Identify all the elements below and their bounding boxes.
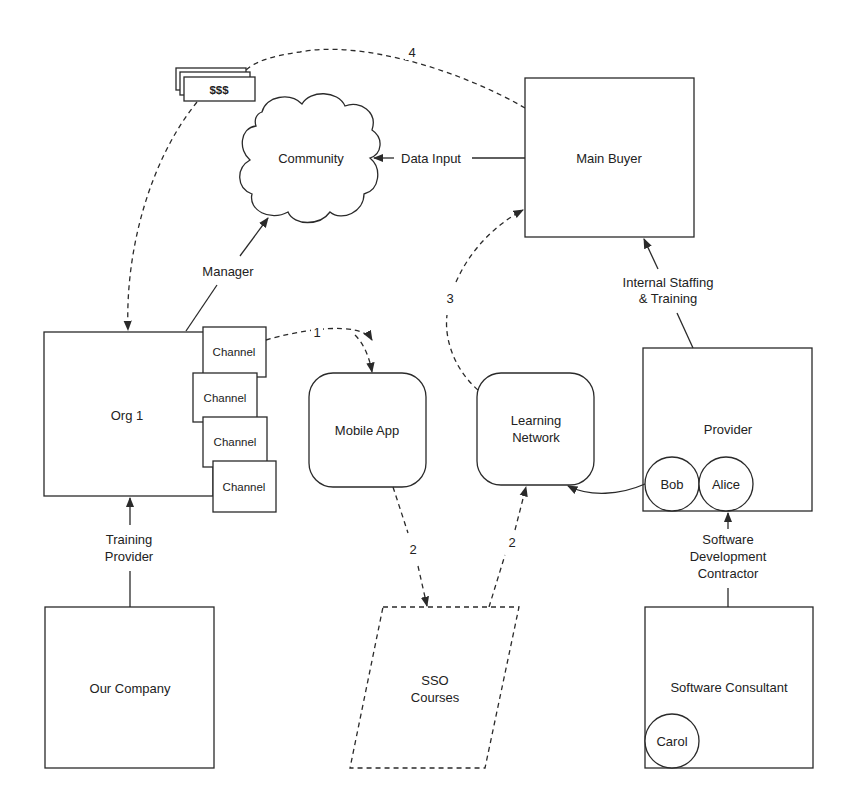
- svg-text:& Training: & Training: [639, 291, 698, 306]
- carol-node[interactable]: Carol: [645, 714, 699, 768]
- svg-text:Contractor: Contractor: [698, 566, 759, 581]
- edge-money-to-org1: [128, 102, 197, 330]
- svg-text:Software: Software: [702, 532, 753, 547]
- diagram-canvas: 4 $$$ Community Data Input Main Buyer Ma…: [0, 0, 855, 806]
- svg-text:Alice: Alice: [712, 477, 740, 492]
- channel-4[interactable]: Channel: [213, 461, 276, 512]
- svg-text:Channel: Channel: [214, 436, 257, 448]
- svg-text:Network: Network: [512, 430, 560, 445]
- money-stack[interactable]: $$$: [176, 68, 255, 101]
- our-company-node[interactable]: Our Company: [45, 607, 214, 768]
- svg-text:2: 2: [409, 542, 416, 557]
- svg-text:Courses: Courses: [411, 690, 460, 705]
- org1-node[interactable]: Org 1: [44, 332, 213, 496]
- svg-text:1: 1: [313, 325, 320, 340]
- edge-software-dev-contractor: Software Development Contractor: [690, 513, 767, 607]
- svg-text:Channel: Channel: [213, 346, 256, 358]
- our-company-label: Our Company: [90, 681, 171, 696]
- community-cloud[interactable]: Community: [240, 94, 380, 223]
- svg-text:Training: Training: [106, 532, 152, 547]
- main-buyer-node[interactable]: Main Buyer: [525, 78, 694, 237]
- mobile-app-label: Mobile App: [335, 423, 399, 438]
- money-label: $$$: [209, 84, 229, 96]
- mobile-app-node[interactable]: Mobile App: [309, 373, 426, 487]
- community-label: Community: [278, 151, 344, 166]
- edge-training-provider: Training Provider: [105, 498, 154, 607]
- svg-text:3: 3: [446, 291, 453, 306]
- channel-1[interactable]: Channel: [203, 327, 266, 377]
- provider-label: Provider: [704, 422, 753, 437]
- org1-label: Org 1: [111, 408, 144, 423]
- svg-text:2: 2: [508, 535, 515, 550]
- svg-text:4: 4: [408, 45, 415, 60]
- svg-text:Data Input: Data Input: [401, 151, 461, 166]
- svg-text:Bob: Bob: [660, 477, 683, 492]
- learning-network-node[interactable]: Learning Network: [477, 373, 594, 485]
- edge-bob-to-learning-network: [568, 484, 645, 493]
- main-buyer-label: Main Buyer: [576, 151, 642, 166]
- alice-node[interactable]: Alice: [699, 457, 753, 511]
- channel-2[interactable]: Channel: [193, 373, 257, 422]
- svg-text:Channel: Channel: [223, 481, 266, 493]
- svg-text:Internal Staffing: Internal Staffing: [623, 275, 714, 290]
- edge-internal-staffing: Internal Staffing & Training: [623, 239, 714, 348]
- bob-node[interactable]: Bob: [645, 457, 699, 511]
- edge-step-1: 1: [266, 324, 372, 372]
- channel-3[interactable]: Channel: [203, 417, 267, 467]
- edge-data-input: Data Input: [374, 151, 525, 166]
- edge-manager: Manager: [186, 218, 268, 331]
- svg-text:Provider: Provider: [105, 549, 154, 564]
- svg-text:Manager: Manager: [202, 264, 254, 279]
- edge-step-2b: 2: [489, 487, 526, 607]
- edge-step-2a: 2: [393, 487, 427, 606]
- svg-text:Carol: Carol: [656, 734, 687, 749]
- svg-text:Development: Development: [690, 549, 767, 564]
- software-consultant-label: Software Consultant: [670, 680, 787, 695]
- svg-text:SSO: SSO: [421, 673, 448, 688]
- svg-text:Channel: Channel: [204, 392, 247, 404]
- edge-step-3: 3: [446, 210, 523, 390]
- svg-text:Learning: Learning: [511, 413, 562, 428]
- sso-courses-node[interactable]: SSO Courses: [350, 607, 519, 768]
